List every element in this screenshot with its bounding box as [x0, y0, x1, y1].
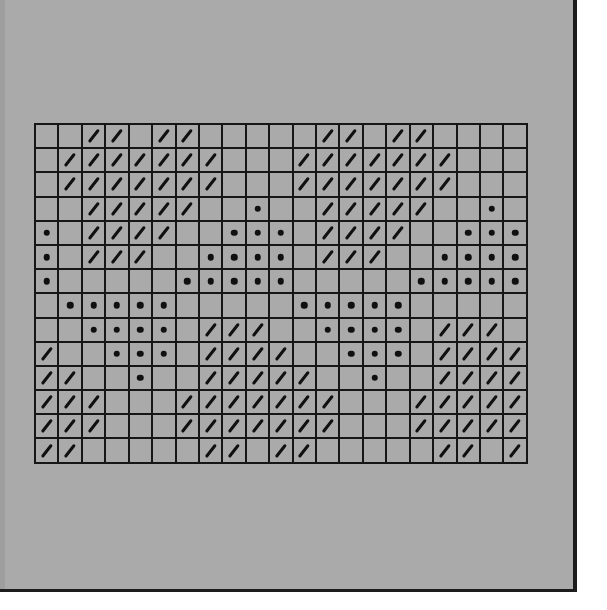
empty-cell [130, 391, 153, 415]
empty-cell [294, 198, 317, 222]
slash-symbol-icon [387, 149, 410, 173]
slash-symbol-icon [247, 391, 270, 415]
slash-symbol-icon [247, 367, 270, 391]
slash-symbol-icon [458, 415, 481, 439]
dot-symbol-icon [83, 294, 106, 318]
empty-cell [177, 222, 200, 246]
slash-symbol-icon [434, 343, 457, 367]
empty-cell [130, 415, 153, 439]
empty-cell [411, 439, 434, 463]
dot-symbol-icon [364, 319, 387, 343]
slash-symbol-icon [223, 367, 246, 391]
dot-symbol-icon [434, 246, 457, 270]
slash-symbol-icon [83, 222, 106, 246]
dot-symbol-icon [223, 270, 246, 294]
empty-cell [294, 343, 317, 367]
empty-cell [223, 173, 246, 197]
slash-symbol-icon [130, 222, 153, 246]
slash-symbol-icon [434, 415, 457, 439]
slash-symbol-icon [130, 246, 153, 270]
slash-symbol-icon [153, 222, 176, 246]
slash-symbol-icon [340, 149, 363, 173]
dot-symbol-icon [83, 319, 106, 343]
slash-symbol-icon [59, 173, 82, 197]
slash-symbol-icon [481, 367, 504, 391]
slash-symbol-icon [387, 173, 410, 197]
slash-symbol-icon [434, 173, 457, 197]
empty-cell [387, 246, 410, 270]
empty-cell [177, 343, 200, 367]
dot-symbol-icon [317, 294, 340, 318]
dot-symbol-icon [153, 294, 176, 318]
empty-cell [36, 149, 59, 173]
empty-cell [504, 125, 527, 149]
slash-symbol-icon [434, 367, 457, 391]
empty-cell [317, 367, 340, 391]
slash-symbol-icon [36, 367, 59, 391]
empty-cell [504, 198, 527, 222]
slash-symbol-icon [481, 391, 504, 415]
slash-symbol-icon [36, 415, 59, 439]
slash-symbol-icon [200, 367, 223, 391]
empty-cell [411, 222, 434, 246]
slash-symbol-icon [223, 439, 246, 463]
empty-cell [36, 198, 59, 222]
slash-symbol-icon [223, 391, 246, 415]
dot-symbol-icon [106, 294, 129, 318]
empty-cell [153, 391, 176, 415]
empty-cell [364, 439, 387, 463]
empty-cell [270, 319, 293, 343]
empty-cell [270, 294, 293, 318]
dot-symbol-icon [247, 246, 270, 270]
empty-cell [130, 125, 153, 149]
empty-cell [481, 439, 504, 463]
empty-cell [36, 294, 59, 318]
empty-cell [481, 149, 504, 173]
empty-cell [294, 222, 317, 246]
empty-cell [223, 149, 246, 173]
slash-symbol-icon [504, 415, 527, 439]
slash-symbol-icon [364, 246, 387, 270]
slash-symbol-icon [434, 439, 457, 463]
empty-cell [364, 391, 387, 415]
slash-symbol-icon [247, 319, 270, 343]
dot-symbol-icon [340, 319, 363, 343]
empty-cell [364, 270, 387, 294]
slash-symbol-icon [504, 343, 527, 367]
slash-symbol-icon [411, 125, 434, 149]
empty-cell [481, 173, 504, 197]
empty-cell [387, 270, 410, 294]
slash-symbol-icon [411, 415, 434, 439]
dot-symbol-icon [458, 270, 481, 294]
slash-symbol-icon [83, 391, 106, 415]
dot-symbol-icon [434, 270, 457, 294]
dot-symbol-icon [247, 222, 270, 246]
dot-symbol-icon [106, 343, 129, 367]
dot-symbol-icon [130, 343, 153, 367]
empty-cell [59, 270, 82, 294]
empty-cell [223, 198, 246, 222]
dot-symbol-icon [317, 319, 340, 343]
slash-symbol-icon [59, 149, 82, 173]
empty-cell [200, 125, 223, 149]
slash-symbol-icon [223, 415, 246, 439]
empty-cell [340, 270, 363, 294]
dot-symbol-icon [481, 198, 504, 222]
slash-symbol-icon [200, 319, 223, 343]
slash-symbol-icon [106, 222, 129, 246]
slash-symbol-icon [200, 439, 223, 463]
slash-symbol-icon [153, 173, 176, 197]
dot-symbol-icon [270, 270, 293, 294]
empty-cell [106, 439, 129, 463]
empty-cell [59, 125, 82, 149]
slash-symbol-icon [83, 173, 106, 197]
empty-cell [411, 343, 434, 367]
slash-symbol-icon [364, 198, 387, 222]
empty-cell [504, 149, 527, 173]
slash-symbol-icon [387, 125, 410, 149]
slash-symbol-icon [36, 343, 59, 367]
empty-cell [247, 294, 270, 318]
slash-symbol-icon [177, 391, 200, 415]
empty-cell [130, 439, 153, 463]
slash-symbol-icon [106, 173, 129, 197]
